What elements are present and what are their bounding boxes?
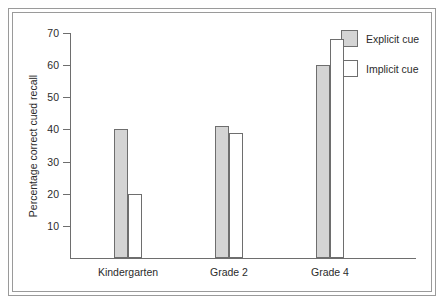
y-axis-tick-mark	[63, 97, 71, 98]
y-axis-tick: 10	[0, 226, 71, 227]
bar-implicit	[229, 133, 243, 258]
y-axis-tick-label: 10	[37, 221, 59, 232]
y-axis-tick: 70	[0, 33, 71, 34]
y-axis-tick-label: 70	[37, 28, 59, 39]
y-axis-tick-label: 50	[37, 92, 59, 103]
bar-explicit	[316, 65, 330, 258]
bar-chart-plot-area: Percentage correct cued recall 706050403…	[0, 0, 446, 306]
bar-implicit	[128, 194, 142, 258]
y-axis-tick: 50	[0, 97, 71, 98]
y-axis-tick-mark	[63, 129, 71, 130]
y-axis-tick-mark	[63, 65, 71, 66]
legend-item-implicit: Implicit cue	[341, 60, 433, 78]
y-axis-tick-mark	[63, 33, 71, 34]
x-axis-group-label: Grade 4	[270, 265, 390, 279]
y-axis-tick-label: 20	[37, 189, 59, 200]
y-axis-tick-mark	[63, 194, 71, 195]
legend-item-explicit: Explicit cue	[341, 30, 433, 48]
y-axis-tick: 60	[0, 65, 71, 66]
chart-legend: Explicit cue Implicit cue	[341, 30, 433, 90]
bar-explicit	[215, 126, 229, 258]
y-axis-tick: 30	[0, 162, 71, 163]
y-axis-tick-label: 40	[37, 124, 59, 135]
bar-implicit	[330, 39, 344, 258]
legend-label-explicit: Explicit cue	[366, 32, 419, 46]
bar-explicit	[114, 129, 128, 258]
y-axis-tick-mark	[63, 226, 71, 227]
x-axis-line	[70, 258, 416, 259]
y-axis-tick-mark	[63, 162, 71, 163]
y-axis-tick-label: 60	[37, 60, 59, 71]
y-axis-tick-label: 30	[37, 157, 59, 168]
y-axis-tick: 20	[0, 194, 71, 195]
legend-label-implicit: Implicit cue	[366, 62, 419, 76]
figure-container: Percentage correct cued recall 706050403…	[0, 0, 446, 306]
y-axis-tick: 40	[0, 129, 71, 130]
